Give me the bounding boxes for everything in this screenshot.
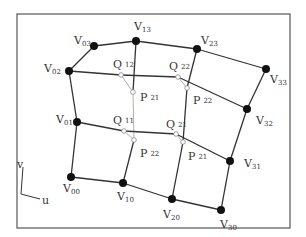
vertex-v32-label: V32 <box>255 114 273 128</box>
u-axis-arrow <box>21 194 40 199</box>
mesh-edge <box>71 177 123 183</box>
vertex-v10-label: V10 <box>116 190 134 204</box>
point-q21 <box>174 132 179 137</box>
point-q11-label: Q11 <box>113 114 134 127</box>
vertex-v03 <box>90 42 98 50</box>
mesh-edge <box>230 109 247 161</box>
v-axis-arrow <box>21 167 23 194</box>
vertex-v00 <box>67 173 75 181</box>
vertex-v31-label: V31 <box>243 157 261 171</box>
point-q11 <box>122 129 127 134</box>
vertex-v10 <box>119 179 127 187</box>
mesh-edge <box>172 199 221 210</box>
vertex-v31 <box>226 157 234 165</box>
mesh-edge <box>172 142 183 199</box>
point-p22b-label: P22 <box>140 147 159 160</box>
mesh-edge <box>136 41 197 49</box>
vertex-v23 <box>193 45 201 53</box>
guide-line <box>121 75 133 92</box>
point-p22b <box>132 138 137 143</box>
vertex-v30-label: V30 <box>219 218 237 232</box>
vertex-v01-label: V01 <box>55 113 73 127</box>
vertex-v32 <box>243 105 251 113</box>
mesh-edge <box>69 71 77 122</box>
bilinear-mesh-diagram: Q12Q22Q11Q21P21P22P22P21 V00V01V02V03V10… <box>0 0 306 237</box>
mesh-edge <box>197 49 266 69</box>
guide-line <box>133 92 134 140</box>
vertex-v03-label: V03 <box>73 34 91 48</box>
mesh-edge <box>221 161 230 210</box>
vertex-v13-label: V13 <box>133 20 151 34</box>
diagram-canvas: Q12Q22Q11Q21P21P22P22P21 V00V01V02V03V10… <box>0 0 306 237</box>
point-p22a <box>185 86 190 91</box>
point-p21a-label: P21 <box>140 91 159 104</box>
mesh-edge <box>121 75 178 77</box>
control-vertices: V00V01V02V03V10V13V20V23V30V31V32V33 <box>43 20 287 232</box>
point-p22a-label: P22 <box>193 94 212 107</box>
mesh-edge <box>69 46 94 71</box>
point-p21b <box>181 140 186 145</box>
uv-axes: v u <box>16 158 49 207</box>
point-q22-label: Q22 <box>169 60 190 73</box>
vertex-v33-label: V33 <box>269 73 287 87</box>
vertex-v02-label: V02 <box>43 62 61 76</box>
vertex-v23-label: V23 <box>200 34 218 48</box>
vertex-v02 <box>65 67 73 75</box>
auxiliary-points: Q12Q22Q11Q21P21P22P22P21 <box>113 58 212 163</box>
u-axis-label: u <box>42 194 49 207</box>
mesh-edge <box>69 71 121 75</box>
mesh-edge <box>123 140 134 183</box>
point-q12 <box>119 73 124 78</box>
vertex-v33 <box>262 65 270 73</box>
vertex-v30 <box>217 206 225 214</box>
point-q22 <box>176 75 181 80</box>
mesh-edge <box>94 41 136 46</box>
mesh-edge <box>71 122 77 177</box>
vertex-v20 <box>168 195 176 203</box>
mesh-edge <box>247 69 266 109</box>
mesh-edge <box>183 88 187 142</box>
vertex-v20-label: V20 <box>162 208 180 222</box>
v-axis-label: v <box>16 158 24 171</box>
point-p21b-label: P21 <box>188 150 207 163</box>
point-q12-label: Q12 <box>113 58 134 71</box>
mesh-edge <box>124 131 176 134</box>
vertex-v00-label: V00 <box>62 182 80 196</box>
point-p21a <box>131 90 136 95</box>
vertex-v01 <box>73 118 81 126</box>
vertex-v13 <box>132 37 140 45</box>
